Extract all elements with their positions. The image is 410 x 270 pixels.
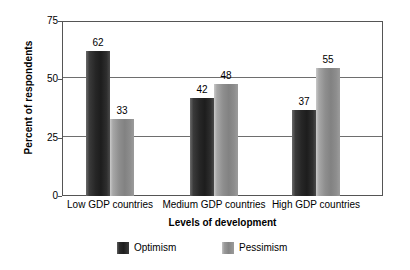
bar-optimism[interactable] bbox=[292, 110, 316, 196]
legend-swatch-icon bbox=[222, 242, 234, 254]
bar-value-label: 55 bbox=[322, 55, 333, 65]
bar-pessimism[interactable] bbox=[214, 84, 238, 196]
bar-value-label: 33 bbox=[116, 106, 127, 116]
bar-group: 4248 bbox=[190, 21, 238, 196]
bar-optimism[interactable] bbox=[190, 98, 214, 196]
bar-value-label: 37 bbox=[298, 97, 309, 107]
bar-optimism[interactable] bbox=[86, 51, 110, 196]
bar-value-label: 42 bbox=[196, 85, 207, 95]
bar-pessimism[interactable] bbox=[110, 119, 134, 196]
bars-layer: 623342483755 bbox=[62, 21, 383, 196]
x-axis-tick-label: Low GDP countries bbox=[67, 199, 153, 211]
x-axis-title: Levels of development bbox=[62, 217, 383, 228]
legend: OptimismPessimism bbox=[62, 242, 383, 258]
y-axis-title: Percent of respondents bbox=[23, 8, 34, 188]
legend-item-optimism[interactable]: Optimism bbox=[117, 242, 176, 254]
bar-chart: Percent of respondents 7550250 623342483… bbox=[0, 0, 410, 270]
bar-value-label: 62 bbox=[92, 38, 103, 48]
bar-group: 6233 bbox=[86, 21, 134, 196]
x-axis-tick-labels: Low GDP countriesMedium GDP countriesHig… bbox=[62, 199, 383, 213]
x-axis-tick-label: Medium GDP countries bbox=[162, 199, 265, 211]
bar-group: 3755 bbox=[292, 21, 340, 196]
legend-swatch-icon bbox=[117, 242, 129, 254]
bar-value-label: 48 bbox=[220, 71, 231, 81]
y-axis-tick-label: 50 bbox=[18, 74, 58, 84]
legend-label: Optimism bbox=[134, 242, 176, 254]
x-axis-tick-label: High GDP countries bbox=[272, 199, 360, 211]
y-axis-tick-mark bbox=[58, 196, 62, 197]
legend-item-pessimism[interactable]: Pessimism bbox=[222, 242, 287, 254]
y-axis-tick-label: 0 bbox=[18, 191, 58, 201]
bar-pessimism[interactable] bbox=[316, 68, 340, 196]
y-axis-tick-label: 75 bbox=[18, 16, 58, 26]
legend-label: Pessimism bbox=[239, 242, 287, 254]
y-axis-tick-label: 25 bbox=[18, 133, 58, 143]
